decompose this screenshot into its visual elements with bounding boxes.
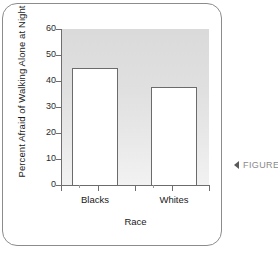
x-tick-center-whites: [153, 185, 154, 188]
figure-screenshot: 0 10 20 30 40 50 60 Percent Afraid of Wa…: [0, 0, 278, 256]
figure-caption-text: FIGURE: [243, 160, 278, 170]
x-tick-center-blacks: [79, 185, 80, 188]
bar-blacks: [72, 68, 118, 186]
y-tick-60: [56, 29, 61, 30]
x-tick-boundary-3: [172, 185, 173, 191]
figure-card: 0 10 20 30 40 50 60 Percent Afraid of Wa…: [2, 3, 222, 246]
y-tick-40: [56, 81, 61, 82]
y-axis-line: [61, 29, 62, 186]
x-tick-boundary-1: [98, 185, 99, 191]
x-axis-title: Race: [61, 216, 210, 227]
figure-caption-marker: FIGURE: [234, 160, 278, 170]
y-axis-title: Percent Afraid of Walking Alone at Night: [16, 18, 27, 178]
x-tick-boundary-4: [209, 185, 210, 191]
x-tick-boundary-0: [61, 185, 62, 191]
bar-whites: [151, 87, 197, 186]
x-category-label-blacks: Blacks: [60, 194, 130, 205]
y-tick-label-0: 0: [20, 180, 56, 189]
y-tick-20: [56, 133, 61, 134]
x-category-label-whites: Whites: [139, 194, 209, 205]
y-tick-50: [56, 55, 61, 56]
y-tick-10: [56, 159, 61, 160]
x-tick-boundary-2: [135, 185, 136, 191]
y-tick-30: [56, 107, 61, 108]
left-triangle-icon: [234, 161, 239, 169]
